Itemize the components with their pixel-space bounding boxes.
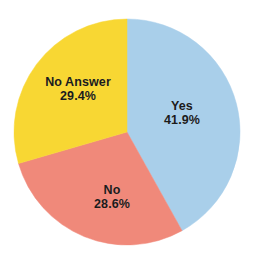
pie-chart: Yes 41.9% No 28.6% No Answer 29.4% bbox=[0, 0, 256, 258]
pie-slices-group bbox=[14, 19, 240, 245]
slice-label-no-value: 28.6% bbox=[94, 197, 130, 211]
slice-label-no-name: No bbox=[94, 183, 130, 197]
slice-label-yes-value: 41.9% bbox=[164, 113, 200, 127]
slice-label-no: No 28.6% bbox=[94, 183, 130, 211]
pie-chart-canvas bbox=[0, 0, 256, 258]
slice-label-yes-name: Yes bbox=[164, 99, 200, 113]
slice-label-no-answer-value: 29.4% bbox=[45, 89, 111, 103]
slice-label-no-answer-name: No Answer bbox=[45, 75, 111, 89]
slice-label-no-answer: No Answer 29.4% bbox=[45, 75, 111, 103]
slice-label-yes: Yes 41.9% bbox=[164, 99, 200, 127]
